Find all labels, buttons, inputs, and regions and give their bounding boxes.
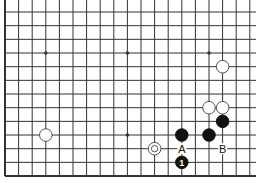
go-board: 1 AB (0, 0, 256, 183)
move-number: 1 (179, 158, 184, 168)
stones: 1 (40, 60, 229, 168)
white-stone (216, 60, 229, 73)
white-stone (216, 101, 229, 114)
black-stone (216, 115, 229, 128)
black-stone (203, 129, 216, 142)
white-stone (40, 129, 53, 142)
black-stone (176, 129, 189, 142)
star-point (44, 51, 48, 55)
point-label: B (219, 143, 226, 155)
star-point (126, 133, 130, 137)
star-point (126, 51, 130, 55)
white-stone (148, 142, 161, 155)
white-stone (203, 101, 216, 114)
point-label: A (178, 143, 186, 155)
star-point (207, 51, 211, 55)
